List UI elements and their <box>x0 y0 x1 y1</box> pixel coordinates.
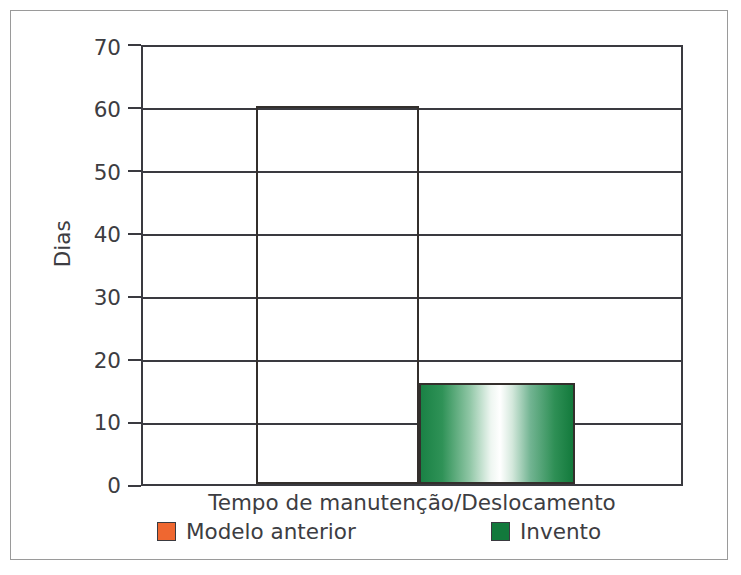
legend-item-modelo-anterior: Modelo anterior <box>157 521 356 543</box>
y-tick-mark-0 <box>128 485 141 487</box>
legend-swatch-modelo-anterior <box>157 522 176 541</box>
y-tick-label-60: 60 <box>69 99 121 121</box>
y-tick-label-20: 20 <box>69 350 121 372</box>
y-tick-label-50: 50 <box>69 162 121 184</box>
y-tick-label-70: 70 <box>69 37 121 59</box>
legend-swatch-invento <box>491 522 510 541</box>
plot-area <box>141 45 683 486</box>
legend-item-invento: Invento <box>491 521 601 543</box>
y-tick-mark-60 <box>128 107 141 109</box>
y-tick-label-0: 0 <box>69 475 121 497</box>
chart-legend: Modelo anterior Invento <box>141 521 701 551</box>
y-tick-mark-30 <box>128 296 141 298</box>
y-tick-mark-20 <box>128 359 141 361</box>
legend-label-modelo-anterior: Modelo anterior <box>186 521 356 543</box>
legend-label-invento: Invento <box>520 521 601 543</box>
y-tick-mark-40 <box>128 233 141 235</box>
bar-invento <box>419 383 575 484</box>
bar-modelo-anterior <box>256 106 419 484</box>
y-tick-label-30: 30 <box>69 287 121 309</box>
y-tick-mark-70 <box>128 44 141 46</box>
y-tick-label-40: 40 <box>69 224 121 246</box>
chart-frame: Dias 70 60 50 40 30 20 10 0 Temp <box>10 10 728 560</box>
x-axis-title: Tempo de manutenção/Deslocamento <box>141 492 683 514</box>
y-tick-mark-10 <box>128 422 141 424</box>
y-tick-mark-50 <box>128 170 141 172</box>
bar-chart-figure: Dias 70 60 50 40 30 20 10 0 Temp <box>0 0 741 575</box>
y-tick-label-10: 10 <box>69 412 121 434</box>
